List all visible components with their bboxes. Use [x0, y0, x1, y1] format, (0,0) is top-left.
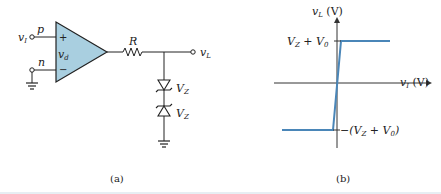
caption-b: (b)	[336, 173, 350, 184]
zener1-label: VZ	[176, 82, 189, 96]
output-label: vL	[200, 46, 211, 60]
figure: vI p n + − vd R vL VZ	[0, 0, 441, 194]
circuit-diagram: vI p n + − vd R vL VZ	[18, 22, 211, 184]
y-axis-label: vL (V)	[312, 5, 343, 19]
p-label: p	[37, 23, 44, 36]
caption-a: (a)	[110, 173, 124, 184]
output-terminal	[191, 50, 195, 54]
resistor-label: R	[128, 35, 137, 48]
upper-level-label: VZ + V0	[287, 35, 329, 49]
zener-diode-icon-2	[156, 104, 172, 116]
input-label: vI	[18, 31, 27, 45]
input-terminal-n	[30, 68, 34, 72]
x-axis-label: vI (V)	[400, 76, 429, 90]
ground-icon	[158, 141, 170, 147]
transfer-graph: vL (V) vI (V) VZ + V0 −(VZ + V0) (b)	[274, 5, 432, 184]
n-label: n	[38, 56, 45, 69]
transfer-curve	[282, 41, 390, 130]
resistor-icon	[123, 48, 142, 56]
minus-sign: −	[59, 64, 67, 75]
ground-icon	[26, 83, 38, 89]
zener2-label: VZ	[176, 107, 189, 121]
input-terminal-p	[30, 35, 34, 39]
plus-sign: +	[59, 32, 67, 43]
lower-level-label: −(VZ + V0)	[340, 124, 399, 138]
